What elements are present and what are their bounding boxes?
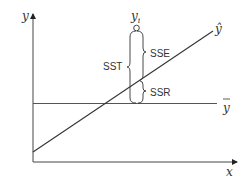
regression-line-label: ŷ <box>214 22 222 36</box>
data-point-label: yi <box>130 9 141 25</box>
sse-brace <box>137 31 146 80</box>
regression-sum-of-squares-diagram: y x y ŷ yi SST SSE SSR <box>0 0 250 182</box>
diagram-canvas: y x y ŷ yi SST SSE SSR <box>0 0 250 182</box>
x-axis-label: x <box>226 165 233 179</box>
sst-brace <box>127 31 136 103</box>
regression-line <box>33 31 213 152</box>
sst-label: SST <box>103 61 122 72</box>
mean-line-label: y <box>222 101 230 115</box>
y-axis-label: y <box>21 9 29 23</box>
ssr-label: SSR <box>150 87 171 98</box>
sse-label: SSE <box>150 48 170 59</box>
data-point-yi <box>134 25 140 31</box>
ssr-brace <box>138 81 146 103</box>
